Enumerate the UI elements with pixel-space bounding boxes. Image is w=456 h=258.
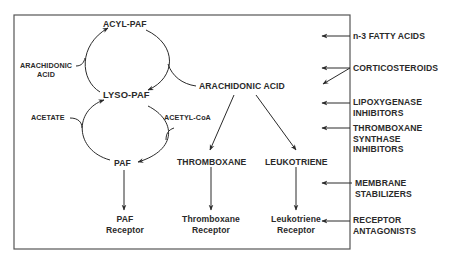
node-paf: PAF — [114, 158, 131, 168]
inhibitor-membrane-line1: MEMBRANE — [355, 178, 412, 189]
inhibitor-lipox-line1: LIPOXYGENASE — [353, 97, 422, 108]
thromboxane-receptor-line1: Thromboxane — [178, 214, 244, 225]
acetyl-coa-output-curve — [166, 128, 174, 140]
label-arachidonic-line1: ARACHIDONIC — [16, 61, 76, 70]
paf-receptor: PAF Receptor — [98, 214, 152, 236]
inhibitor-cortico-line1: CORTICOSTEROIDS — [353, 63, 438, 74]
arachidonic-output-curve — [168, 64, 196, 86]
node-leukotriene: LEUKOTRIENE — [265, 157, 328, 167]
inhibitor-n3-fatty-acids: n-3 FATTY ACIDS — [353, 31, 425, 42]
acetate-input-curve — [70, 118, 82, 128]
inhibitor-n3-line1: n-3 FATTY ACIDS — [353, 31, 425, 42]
inhibitor-receptor-antagonists: RECEPTOR ANTAGONISTS — [353, 215, 416, 236]
cycle-arrow-paf-to-lyso — [82, 100, 110, 160]
inhibitor-txs-line3: INHIBITORS — [353, 144, 422, 155]
label-arachidonic-acid-small: ARACHIDONIC ACID — [16, 61, 76, 79]
inhibitor-corticosteroids: CORTICOSTEROIDS — [353, 63, 438, 74]
node-thromboxane: THROMBOXANE — [177, 157, 246, 167]
node-lyso-paf: LYSO-PAF — [103, 90, 150, 100]
label-acetate: ACETATE — [31, 113, 65, 122]
inhibitor-lipoxygenase: LIPOXYGENASE INHIBITORS — [353, 97, 422, 118]
node-arachidonic-acid: ARACHIDONIC ACID — [199, 81, 285, 91]
inhibitor-receptor-line2: ANTAGONISTS — [353, 226, 416, 237]
inhibitor-membrane-line2: STABILIZERS — [355, 189, 412, 200]
cycle-arrow-lyso-to-acyl — [85, 28, 108, 92]
leukotriene-receptor-line1: Leukotriene — [264, 214, 328, 225]
thromboxane-receptor: Thromboxane Receptor — [178, 214, 244, 236]
inhibitor-txs-line2: SYNTHASE — [353, 134, 422, 145]
inhibitor-receptor-line1: RECEPTOR — [353, 215, 416, 226]
cortico-inhibit-arrow-2 — [323, 68, 350, 84]
arachidonic-input-curve — [76, 58, 85, 66]
inhibitor-membrane-stabilizers: MEMBRANE STABILIZERS — [355, 178, 412, 199]
leukotriene-receptor-line2: Receptor — [264, 225, 328, 236]
paf-receptor-line1: PAF — [98, 214, 152, 225]
inhibitor-thromboxane-synthase: THROMBOXANE SYNTHASE INHIBITORS — [353, 123, 422, 155]
label-acetyl-coa: ACETYL-CoA — [164, 113, 211, 122]
aa-to-thromboxane-arrow — [210, 95, 234, 150]
label-arachidonic-line2: ACID — [16, 70, 76, 79]
leukotriene-receptor: Leukotriene Receptor — [264, 214, 328, 236]
node-acyl-paf: ACYL-PAF — [103, 19, 147, 29]
inhibitor-lipox-line2: INHIBITORS — [353, 108, 422, 119]
paf-receptor-line2: Receptor — [98, 225, 152, 236]
aa-to-leukotriene-arrow — [256, 95, 296, 150]
thromboxane-receptor-line2: Receptor — [178, 225, 244, 236]
inhibitor-txs-line1: THROMBOXANE — [353, 123, 422, 134]
cycle-arrow-acyl-to-lyso — [146, 30, 170, 90]
